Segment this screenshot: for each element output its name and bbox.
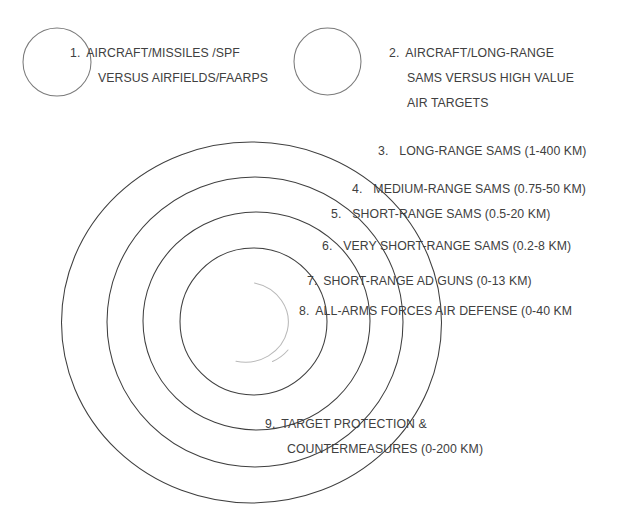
callout-circle-2: [294, 28, 361, 95]
callout-text-1-line-1: AIRCRAFT/MISSILES /SPF: [86, 41, 239, 66]
callout-text-2-line-1: AIRCRAFT/LONG-RANGE: [405, 41, 554, 66]
ring-number-9: 9.: [265, 412, 275, 437]
ring-text-4: MEDIUM-RANGE SAMS (0.75-50 KM): [373, 177, 586, 202]
ring-text-3: LONG-RANGE SAMS (1-400 KM): [399, 139, 586, 164]
ring-label-4: 4.MEDIUM-RANGE SAMS (0.75-50 KM): [352, 177, 586, 202]
ring-text-5: SHORT-RANGE SAMS (0.5-20 KM): [352, 202, 550, 227]
ring-number-6: 6.: [322, 234, 332, 259]
callout-number-1: 1.: [70, 41, 80, 66]
ring-inner-core: [236, 283, 288, 362]
ring-number-8: 8.: [299, 299, 309, 324]
callout-text-1-line-2: VERSUS AIRFIELDS/FAARPS: [98, 66, 268, 91]
ring-text-9-line-1: TARGET PROTECTION &: [281, 412, 426, 437]
ring-label-7: 7.SHORT-RANGE AD GUNS (0-13 KM): [307, 269, 532, 294]
ring-number-5: 5.: [331, 202, 341, 227]
ring-text-7: SHORT-RANGE AD GUNS (0-13 KM): [323, 269, 531, 294]
ring-label-5: 5.SHORT-RANGE SAMS (0.5-20 KM): [331, 202, 550, 227]
diagram-canvas: 1.AIRCRAFT/MISSILES /SPF VERSUS AIRFIELD…: [0, 0, 619, 516]
ring-number-7: 7.: [307, 269, 317, 294]
ring-text-8: ALL-ARMS FORCES AIR DEFENSE (0-40 KM: [315, 299, 572, 324]
ring-label-8: 8.ALL-ARMS FORCES AIR DEFENSE (0-40 KM: [299, 299, 572, 324]
ring-text-9-line-2: COUNTERMEASURES (0-200 KM): [287, 437, 483, 462]
callout-label-1: 1.AIRCRAFT/MISSILES /SPF VERSUS AIRFIELD…: [70, 41, 268, 91]
ring-text-6: VERY SHORT-RANGE SAMS (0.2-8 KM): [343, 234, 571, 259]
ring-label-9: 9.TARGET PROTECTION & COUNTERMEASURES (0…: [265, 412, 483, 462]
callout-number-2: 2.: [389, 41, 399, 66]
ring-label-3: 3.LONG-RANGE SAMS (1-400 KM): [378, 139, 587, 164]
ring-number-4: 4.: [352, 177, 362, 202]
callout-text-2-line-2: SAMS VERSUS HIGH VALUE: [407, 66, 574, 91]
callout-label-2: 2.AIRCRAFT/LONG-RANGE SAMS VERSUS HIGH V…: [389, 41, 574, 116]
ring-number-3: 3.: [378, 139, 388, 164]
ring-label-6: 6.VERY SHORT-RANGE SAMS (0.2-8 KM): [322, 234, 571, 259]
callout-text-2-line-3: AIR TARGETS: [407, 91, 488, 116]
